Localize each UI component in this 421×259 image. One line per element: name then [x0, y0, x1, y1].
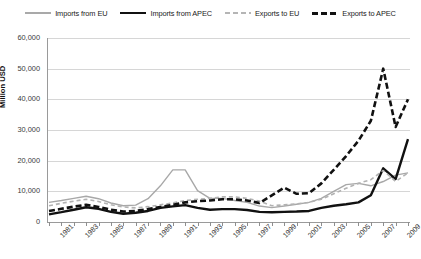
legend-item-exports-to-eu: Exports to EU — [225, 9, 299, 18]
x-tick-label: 1999 — [280, 222, 298, 240]
x-tick-label: 2005 — [355, 222, 373, 240]
legend-swatch-exports-to-eu — [225, 9, 251, 17]
x-tick-label: 2009 — [404, 222, 421, 240]
x-tick-label: 1997 — [256, 222, 274, 240]
y-tick-label: 50,000 — [2, 64, 40, 73]
x-tick-label: 1989 — [157, 222, 175, 240]
x-tick-label: 2001 — [305, 222, 323, 240]
legend-swatch-imports-from-eu — [25, 9, 51, 17]
legend-label-imports-from-eu: Imports from EU — [55, 9, 107, 18]
series-line-exports-to-apec — [49, 69, 408, 212]
x-tick-label: 2003 — [330, 222, 348, 240]
y-tick-label: 30,000 — [2, 125, 40, 134]
chart-container: Imports from EU Imports from APEC Export… — [0, 0, 421, 259]
series-line-imports-from-apec — [49, 139, 408, 214]
legend-item-imports-from-apec: Imports from APEC — [120, 9, 212, 18]
chart-legend: Imports from EU Imports from APEC Export… — [0, 4, 421, 22]
legend-item-exports-to-apec: Exports to APEC — [312, 9, 396, 18]
x-tick-label: 1985 — [107, 222, 125, 240]
x-tick-label: 1987 — [132, 222, 150, 240]
series-lines — [47, 38, 410, 222]
legend-swatch-exports-to-apec — [312, 9, 338, 17]
plot-area — [47, 38, 410, 222]
x-tick-label: 2007 — [380, 222, 398, 240]
legend-label-exports-to-eu: Exports to EU — [255, 9, 299, 18]
legend-label-imports-from-apec: Imports from APEC — [150, 9, 212, 18]
y-tick-label: 60,000 — [2, 33, 40, 42]
legend-swatch-imports-from-apec — [120, 9, 146, 17]
x-tick-label: 1981 — [58, 222, 76, 240]
x-axis-tick-labels: 1981198319851987198919911993199519971999… — [0, 222, 421, 259]
legend-label-exports-to-apec: Exports to APEC — [342, 9, 396, 18]
x-tick-label: 1993 — [206, 222, 224, 240]
y-tick-label: 10,000 — [2, 186, 40, 195]
y-tick-label: 40,000 — [2, 94, 40, 103]
y-tick-label: 20,000 — [2, 156, 40, 165]
x-tick-label: 1983 — [82, 222, 100, 240]
x-tick-label: 1991 — [181, 222, 199, 240]
legend-item-imports-from-eu: Imports from EU — [25, 9, 107, 18]
x-tick-label: 1995 — [231, 222, 249, 240]
